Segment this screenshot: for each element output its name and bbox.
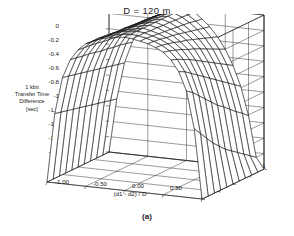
figure-caption: (a)	[0, 212, 294, 221]
surface-mesh	[47, 14, 264, 199]
surface-plot-canvas	[0, 14, 294, 210]
figure-3d-surface-plot: D = 120 m 1 kbit Transfer Time Differenc…	[0, 0, 294, 236]
